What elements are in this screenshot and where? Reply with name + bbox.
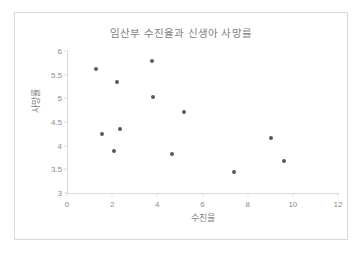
x-axis-tick-mark xyxy=(112,193,113,196)
scatter-point[interactable] xyxy=(118,127,122,131)
scatter-point[interactable] xyxy=(232,170,236,174)
x-axis-line xyxy=(67,193,339,194)
x-axis-tick-mark xyxy=(67,193,68,196)
x-axis-tick-label: 12 xyxy=(334,200,343,209)
scatter-point[interactable] xyxy=(269,136,273,140)
screenshot-root: 임산부 수진율과 신생아 사망률 33.544.555.56024681012 … xyxy=(0,0,362,253)
y-axis-tick-label: 5.5 xyxy=(51,70,62,79)
scatter-point[interactable] xyxy=(94,67,98,71)
x-axis-tick-label: 4 xyxy=(155,200,159,209)
x-axis-title: 수진율 xyxy=(67,211,339,224)
scatter-point[interactable] xyxy=(150,59,154,63)
y-axis-tick-label: 4 xyxy=(58,141,62,150)
y-axis-tick-mark xyxy=(64,169,67,170)
y-axis-tick-mark xyxy=(64,145,67,146)
y-axis-tick-mark xyxy=(64,74,67,75)
y-axis-tick-label: 5 xyxy=(58,94,62,103)
scatter-point[interactable] xyxy=(115,80,119,84)
chart-frame: 임산부 수진율과 신생아 사망률 33.544.555.56024681012 … xyxy=(14,12,348,240)
y-axis-tick-mark xyxy=(64,122,67,123)
scatter-point[interactable] xyxy=(112,149,116,153)
x-axis-tick-mark xyxy=(292,193,293,196)
x-axis-tick-label: 6 xyxy=(200,200,204,209)
scatter-point[interactable] xyxy=(170,152,174,156)
y-axis-tick-mark xyxy=(64,51,67,52)
scatter-point[interactable] xyxy=(282,159,286,163)
x-axis-tick-label: 2 xyxy=(110,200,114,209)
y-axis-tick-label: 3 xyxy=(58,189,62,198)
x-axis-tick-mark xyxy=(247,193,248,196)
scatter-point[interactable] xyxy=(182,110,186,114)
scatter-point[interactable] xyxy=(100,132,104,136)
y-axis-tick-mark xyxy=(64,98,67,99)
x-axis-tick-label: 0 xyxy=(65,200,69,209)
x-axis-tick-label: 10 xyxy=(288,200,297,209)
y-axis-tick-label: 4.5 xyxy=(51,118,62,127)
x-axis-tick-mark xyxy=(202,193,203,196)
y-axis-title: 사망률 xyxy=(29,89,42,113)
y-axis-tick-label: 3.5 xyxy=(51,165,62,174)
y-axis-tick-label: 6 xyxy=(58,47,62,56)
x-axis-tick-mark xyxy=(157,193,158,196)
plot-area: 33.544.555.56024681012 xyxy=(67,51,338,193)
x-axis-tick-mark xyxy=(338,193,339,196)
chart-title: 임산부 수진율과 신생아 사망률 xyxy=(15,25,347,40)
x-axis-tick-label: 8 xyxy=(245,200,249,209)
scatter-point[interactable] xyxy=(151,95,155,99)
